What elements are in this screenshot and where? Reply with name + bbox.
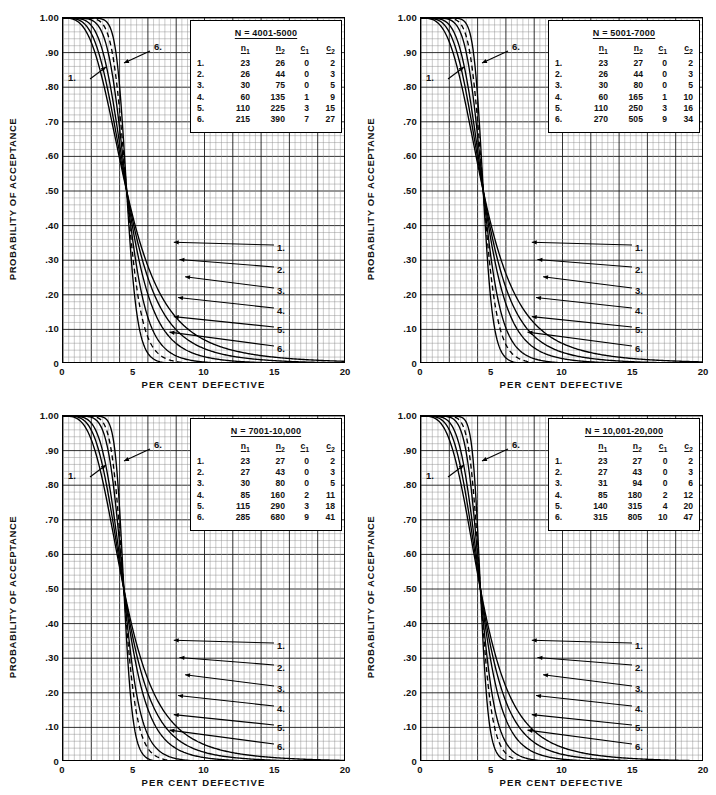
table-row: 2.264403 [195,69,337,80]
table-cell-n2: 43 [252,467,287,478]
table-cell-c2: 5 [311,80,337,91]
y-axis-tick-label: .70 [45,513,59,524]
y-axis-tick-label: .70 [403,513,417,524]
table-cell-n1: 85 [575,490,609,501]
table-cell-idx: 3. [553,478,575,489]
table-cell-n1: 110 [217,103,252,114]
table-cell-n1: 27 [217,467,252,478]
table-cell-idx: 4. [195,490,217,501]
y-axis-tick-label: .70 [403,115,417,126]
x-axis-tick-label: 15 [627,366,638,377]
y-axis-tick-label: 1.00 [40,12,59,23]
table-cell-n2: 43 [609,467,643,478]
table-cell-n1: 215 [217,114,252,125]
curve-label-2: 2. [635,264,643,275]
parameter-table: N = 7001-10,000n1n2c1c21.2327022.2743033… [190,418,342,531]
table-cell-c2: 20 [669,501,695,512]
y-axis-tick-label: 0 [54,756,59,767]
y-axis-tick-label: 0 [412,358,417,369]
x-axis-tick-label: 0 [59,764,64,775]
table-cell-c1: 0 [644,478,670,489]
y-axis-ticks: 1.00.90.80.70.60.50.40.30.20.100 [378,415,417,761]
table-cell-c1: 0 [645,58,669,69]
table-cell-c2: 12 [669,490,695,501]
table-cell-c1: 10 [644,512,670,523]
y-axis-title-text: PROBABILITY OF ACCEPTANCE [7,117,18,280]
table-cell-n1: 23 [575,456,609,467]
y-axis-ticks: 1.00.90.80.70.60.50.40.30.20.100 [20,17,59,363]
x-axis-tick-label: 15 [627,764,638,775]
table-cell-c2: 6 [669,478,695,489]
table-row: 4.85160211 [195,490,337,501]
table-cell-c1: 9 [645,114,669,125]
table-header-row: n1n2c1c2 [553,43,695,58]
table-cell-c1: 2 [644,490,670,501]
table-cell-idx: 5. [553,501,575,512]
callout-label-last: 6. [512,41,520,52]
y-axis-tick-label: .90 [45,46,59,57]
table-cell-idx: 5. [195,103,217,114]
y-axis-tick-label: .10 [45,323,59,334]
x-axis-title: PER CENT DEFECTIVE [62,777,345,788]
table-cell-c2: 2 [311,456,337,467]
x-axis-tick-label: 20 [340,366,351,377]
table-cell-n1: 60 [217,92,252,103]
callout-label-first: 1. [68,72,76,83]
table-cell-c1: 3 [287,103,311,114]
parameter-table-grid: n1n2c1c21.2326022.2644033.3075054.601351… [195,43,337,125]
y-axis-tick-label: .10 [45,721,59,732]
table-cell-c1: 0 [287,467,311,478]
y-axis-title: PROBABILITY OF ACCEPTANCE [362,398,378,795]
x-axis-title: PER CENT DEFECTIVE [62,379,345,390]
curve-label-6: 6. [277,741,285,752]
parameter-table: N = 4001-5000n1n2c1c21.2326022.2644033.3… [190,20,342,133]
table-cell-n2: 26 [252,58,287,69]
table-cell-c1: 0 [644,456,670,467]
x-axis-ticks: 05101520 [420,764,703,778]
y-axis-tick-label: .30 [403,652,417,663]
table-header-n-sub-1: n1 [217,441,252,456]
table-row: 2.274303 [195,467,337,478]
y-axis-title-text: PROBABILITY OF ACCEPTANCE [365,515,376,678]
y-axis-title: PROBABILITY OF ACCEPTANCE [362,0,378,397]
y-axis-title-text: PROBABILITY OF ACCEPTANCE [365,117,376,280]
y-axis-tick-label: .50 [45,185,59,196]
table-cell-n2: 44 [610,69,645,80]
table-cell-n2: 505 [610,114,645,125]
y-axis-tick-label: .90 [403,444,417,455]
y-axis-tick-label: .40 [403,219,417,230]
curve-label-6: 6. [635,343,643,354]
y-axis-tick-label: .50 [403,583,417,594]
table-cell-idx: 3. [195,80,217,91]
callout-label-first: 1. [68,470,76,481]
x-axis-tick-label: 15 [269,764,280,775]
y-axis-tick-label: 0 [54,358,59,369]
y-axis-tick-label: .60 [45,150,59,161]
table-cell-c1: 0 [287,456,311,467]
table-cell-c2: 5 [311,478,337,489]
table-cell-c1: 0 [644,467,670,478]
oc-curve-panel-4: PROBABILITY OF ACCEPTANCE1.00.90.80.70.6… [358,398,716,795]
table-cell-c1: 0 [645,80,669,91]
y-axis-tick-label: .20 [45,288,59,299]
curve-label-3: 3. [277,683,285,694]
table-cell-c2: 2 [669,58,695,69]
table-header-n-sub-2: n2 [610,43,645,58]
y-axis-title-text: PROBABILITY OF ACCEPTANCE [7,515,18,678]
table-header-n-sub-2: n2 [609,441,643,456]
table-cell-n2: 27 [609,456,643,467]
table-cell-c2: 3 [669,69,695,80]
y-axis-tick-label: 1.00 [40,410,59,421]
y-axis-tick-label: .40 [403,617,417,628]
table-cell-n2: 44 [252,69,287,80]
y-axis-tick-label: .50 [403,185,417,196]
table-cell-n1: 31 [575,478,609,489]
table-header-index [195,43,217,58]
x-axis-tick-label: 0 [59,366,64,377]
table-title: N = 5001-7000 [553,28,695,38]
callout-label-last: 6. [512,439,520,450]
curve-label-4: 4. [277,703,285,714]
x-axis-tick-label: 10 [556,764,567,775]
table-header-c-sub-2: c2 [669,441,695,456]
table-header-c-sub-2: c2 [311,441,337,456]
